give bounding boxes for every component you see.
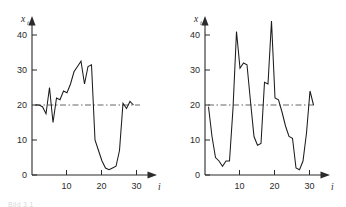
y-tick-label-10: 10 [190, 135, 200, 145]
y-axis-label-right: x [193, 14, 199, 24]
y-tick-label-20: 20 [17, 100, 27, 110]
x-tick-label-20: 20 [96, 181, 106, 191]
x-tick-label-20: 20 [269, 181, 279, 191]
data-curve-left [36, 61, 134, 170]
y-axis-arrow-icon [28, 16, 35, 26]
figure-caption: Bild 3.1 [8, 201, 34, 207]
data-curve-right [209, 21, 314, 170]
y-tick-label-0: 0 [195, 170, 200, 180]
x-axis-right [205, 171, 330, 178]
y-tick-label-40: 40 [190, 30, 200, 40]
chart-panel-right: 0 10 20 30 40 10 20 30 x i i [173, 0, 346, 207]
x-axis-label-right: i [331, 182, 334, 192]
y-axis-right [201, 16, 208, 175]
x-tick-label-30: 30 [304, 181, 314, 191]
x-axis-arrow-icon [148, 171, 158, 178]
y-tick-label-20: 20 [190, 100, 200, 110]
chart-right-svg: 0 10 20 30 40 10 20 30 x i i [173, 0, 346, 207]
y-tick-label-40: 40 [17, 30, 27, 40]
x-tick-label-10: 10 [61, 181, 71, 191]
chart-left-svg: 0 10 20 30 40 10 20 30 x i i [0, 0, 173, 207]
y-tick-label-30: 30 [190, 65, 200, 75]
figure-container: 0 10 20 30 40 10 20 30 x i i [0, 0, 346, 207]
y-axis-arrow-icon [201, 16, 208, 26]
x-tick-marks-left [67, 170, 137, 175]
y-axis-label-left: x [20, 14, 26, 24]
y-axis-left [28, 16, 35, 175]
x-axis-label-left: i [158, 182, 161, 192]
x-tick-label-30: 30 [131, 181, 141, 191]
x-axis-left [32, 171, 157, 178]
x-axis-arrow-icon [321, 171, 331, 178]
x-tick-marks-right [240, 170, 310, 175]
y-tick-label-0: 0 [22, 170, 27, 180]
y-tick-label-30: 30 [17, 65, 27, 75]
y-axis-label-subscript-left: i [27, 19, 29, 26]
x-tick-label-10: 10 [234, 181, 244, 191]
y-tick-label-10: 10 [17, 135, 27, 145]
y-axis-label-subscript-right: i [200, 19, 202, 26]
chart-panel-left: 0 10 20 30 40 10 20 30 x i i [0, 0, 173, 207]
